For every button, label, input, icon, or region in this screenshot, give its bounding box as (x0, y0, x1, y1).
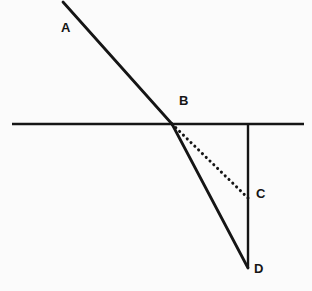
point-label-a: A (61, 21, 70, 34)
diagram-canvas (0, 0, 312, 291)
point-label-d: D (254, 262, 263, 275)
point-label-b: B (179, 94, 188, 107)
point-label-c: C (256, 187, 265, 200)
diagram-background (0, 0, 312, 291)
refraction-diagram: A B C D (0, 0, 312, 291)
